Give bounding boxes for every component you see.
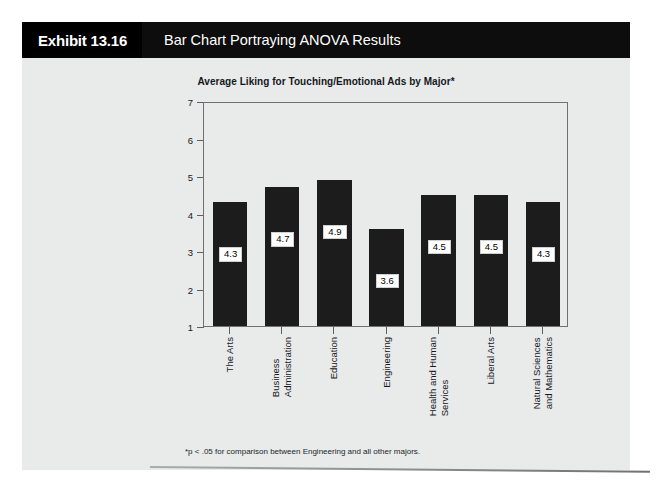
x-axis-tick-mark [438,327,439,334]
bar[interactable] [265,187,299,326]
y-axis-tick-label: 3 [188,247,193,258]
plot-area: 4.34.74.93.64.54.54.3 [203,102,568,327]
x-axis-tick-mark [386,327,387,334]
bars-layer: 4.34.74.93.64.54.54.3 [204,103,567,326]
x-axis-category-label-line: Administration [282,337,294,397]
x-axis-category-label-line: Engineering [381,337,393,388]
x-axis-category-label-line: Liberal Arts [485,337,497,385]
x-axis-tick-mark [490,327,491,334]
bar[interactable] [317,180,351,326]
bar[interactable] [213,202,247,326]
bar[interactable] [474,195,508,326]
bar-value-label: 4.5 [428,240,451,255]
bar-value-label: 4.9 [323,225,346,240]
y-axis: 7654321 [162,92,207,342]
x-axis-tick-mark [542,327,543,334]
x-axis-category-label-line: Business [270,337,282,397]
exhibit-card: Exhibit 13.16 Bar Chart Portraying ANOVA… [22,22,630,470]
chart-title: Average Liking for Touching/Emotional Ad… [22,76,630,87]
x-axis-category-label-line: Education [328,337,340,379]
x-axis-category-label: Health and HumanServices [427,337,451,416]
y-axis-tick-label: 6 [188,134,193,145]
bar-value-label: 4.3 [219,247,242,262]
y-axis-tick-label: 7 [188,97,193,108]
x-axis-category-label-line: Services [439,337,451,416]
x-axis-tick-mark [281,327,282,334]
x-axis-category-label: Liberal Arts [485,337,497,385]
x-axis-category-label-line: Health and Human [427,337,439,416]
bar-value-label: 4.7 [271,232,294,247]
exhibit-header: Exhibit 13.16 Bar Chart Portraying ANOVA… [22,22,630,58]
x-axis-category-label: Natural Sciencesand Mathematics [531,337,555,409]
bar-value-label: 4.3 [532,247,555,262]
x-axis-category-label: Engineering [381,337,393,388]
y-axis-tick-label: 4 [188,209,193,220]
x-axis-category-label: Education [328,337,340,379]
x-axis-tick-mark [229,327,230,334]
exhibit-title: Bar Chart Portraying ANOVA Results [164,32,401,48]
bar[interactable] [526,202,560,326]
x-axis-tick-mark [333,327,334,334]
x-axis: The ArtsBusinessAdministrationEducationE… [203,327,568,457]
y-axis-tick-label: 5 [188,172,193,183]
y-axis-tick-label: 2 [188,284,193,295]
y-axis-tick-label: 1 [188,322,193,333]
bar-value-label: 3.6 [376,274,399,289]
x-axis-category-label-line: and Mathematics [543,337,555,409]
x-axis-category-label-line: The Arts [224,337,236,372]
exhibit-number-badge: Exhibit 13.16 [22,22,142,58]
chart-footnote: *p < .05 for comparison between Engineer… [185,447,420,456]
x-axis-category-label: The Arts [224,337,236,372]
bar[interactable] [421,195,455,326]
x-axis-category-label: BusinessAdministration [270,337,294,397]
x-axis-category-label-line: Natural Sciences [531,337,543,409]
exhibit-number-label: Exhibit 13.16 [38,32,127,49]
bar-value-label: 4.5 [480,240,503,255]
